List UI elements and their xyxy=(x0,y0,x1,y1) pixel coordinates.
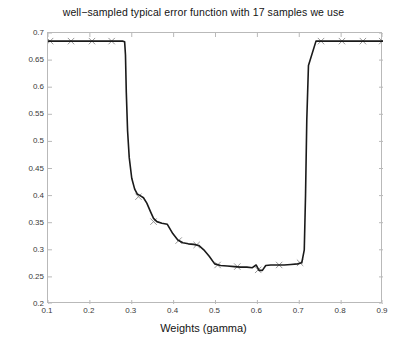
y-tick-label: 0.7 xyxy=(2,28,44,37)
x-tick-label: 0.6 xyxy=(236,306,276,315)
plot-canvas xyxy=(48,33,383,304)
data-markers xyxy=(48,38,383,273)
x-tick-label: 0.3 xyxy=(111,306,151,315)
y-tick-label: 0.6 xyxy=(2,82,44,91)
x-tick-label: 0.2 xyxy=(69,306,109,315)
plot-area xyxy=(47,32,382,303)
y-tick-label: 0.25 xyxy=(2,271,44,280)
y-tick-label: 0.65 xyxy=(2,55,44,64)
x-tick-label: 0.5 xyxy=(195,306,235,315)
y-tick-label: 0.55 xyxy=(2,109,44,118)
error-curve xyxy=(48,41,383,270)
x-axis-tick-labels: 0.10.20.30.40.50.60.70.80.9 xyxy=(0,306,407,322)
x-tick-label: 0.7 xyxy=(278,306,318,315)
y-tick-label: 0.35 xyxy=(2,217,44,226)
x-tick-label: 0.8 xyxy=(320,306,360,315)
chart-title: well−sampled typical error function with… xyxy=(0,6,407,18)
y-tick-label: 0.4 xyxy=(2,190,44,199)
x-tick-label: 0.4 xyxy=(153,306,193,315)
x-tick-label: 0.9 xyxy=(362,306,402,315)
x-axis-label: Weights (gamma) xyxy=(0,322,407,334)
y-tick-label: 0.5 xyxy=(2,136,44,145)
x-tick-label: 0.1 xyxy=(27,306,67,315)
y-tick-label: 0.3 xyxy=(2,244,44,253)
chart-figure: well−sampled typical error function with… xyxy=(0,0,407,346)
y-tick-label: 0.45 xyxy=(2,163,44,172)
y-axis-tick-labels: 0.20.250.30.350.40.450.50.550.60.650.7 xyxy=(0,0,44,346)
